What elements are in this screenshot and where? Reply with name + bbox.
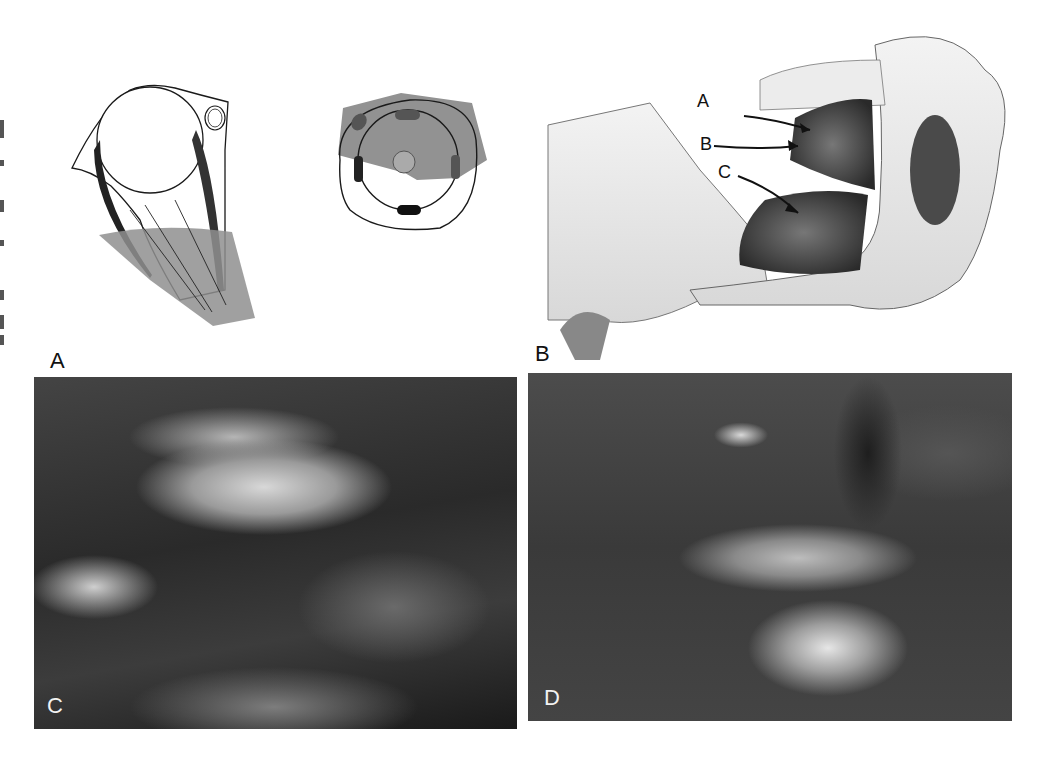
arrow-label-a: A [697,92,709,110]
panel-a-schematic [60,70,270,330]
schematic-cross-section-diagram [60,70,270,330]
panel-label-a: A [50,350,65,372]
panel-b-anatomy-drawing [540,20,1044,365]
arrow-label-c: C [718,163,731,181]
anatomical-illustration [540,20,1044,365]
arrow-label-b: B [700,135,712,153]
panel-label-d: D [544,687,560,709]
cropped-edge-marks [0,90,6,360]
panel-c-photo: C [34,377,517,729]
panel-d-photo: D [528,373,1012,721]
panel-ring-diagram [330,85,495,235]
ring-with-markers-diagram [330,85,495,235]
panel-label-c: C [47,695,63,717]
panel-label-b: B [535,343,550,365]
